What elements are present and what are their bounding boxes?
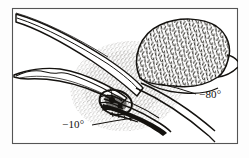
angle-label-minus-10: −10° — [62, 119, 84, 130]
figure-root: −10° −80° — [0, 0, 249, 158]
diagram-canvas — [0, 0, 249, 158]
angle-label-minus-80: −80° — [199, 89, 221, 100]
